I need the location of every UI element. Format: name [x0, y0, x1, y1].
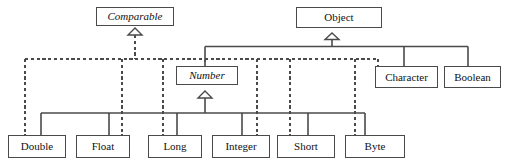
node-label-integer: Integer	[223, 141, 258, 152]
generalization-arrow-to-number	[198, 91, 212, 98]
realization-arrow-to-comparable	[128, 28, 142, 35]
node-label-short: Short	[292, 141, 320, 152]
node-label-byte: Byte	[363, 141, 388, 152]
node-number[interactable]: Number	[176, 66, 238, 85]
node-comparable[interactable]: Comparable	[96, 7, 174, 26]
node-integer[interactable]: Integer	[212, 135, 270, 158]
node-label-object: Object	[322, 12, 355, 23]
node-label-float: Float	[90, 141, 117, 152]
node-label-double: Double	[19, 141, 55, 152]
node-character[interactable]: Character	[375, 66, 438, 88]
node-object[interactable]: Object	[296, 7, 382, 28]
node-boolean[interactable]: Boolean	[444, 66, 501, 88]
node-label-long: Long	[161, 141, 188, 152]
node-double[interactable]: Double	[8, 135, 66, 158]
node-float[interactable]: Float	[76, 135, 130, 158]
node-byte[interactable]: Byte	[345, 135, 405, 158]
node-short[interactable]: Short	[277, 135, 335, 158]
generalization-arrow-to-object	[325, 33, 339, 40]
node-label-boolean: Boolean	[452, 72, 493, 83]
node-long[interactable]: Long	[148, 135, 202, 158]
class-diagram-canvas: Comparable Object Number Character Boole…	[0, 0, 507, 165]
node-label-character: Character	[383, 72, 430, 83]
node-label-comparable: Comparable	[106, 11, 165, 22]
node-label-number: Number	[187, 70, 226, 81]
